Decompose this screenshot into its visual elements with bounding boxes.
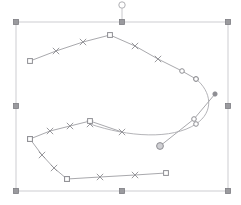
rotate-handle-icon[interactable] (119, 2, 125, 8)
right-bezier-curve[interactable] (90, 79, 209, 135)
handle-middle-right[interactable] (226, 104, 231, 109)
path-node-cross[interactable] (80, 39, 86, 45)
path-node-markers-layer[interactable] (28, 33, 218, 182)
upper-polyline[interactable] (30, 35, 196, 79)
handle-bottom-left[interactable] (14, 189, 19, 194)
path-node-square[interactable] (88, 119, 93, 124)
path-node-cross[interactable] (132, 43, 138, 49)
path-node-cross[interactable] (47, 128, 53, 134)
vector-editor-canvas[interactable] (0, 0, 241, 205)
handle-top-right[interactable] (226, 20, 231, 25)
path-node-circle[interactable] (192, 117, 197, 122)
path-node-square[interactable] (28, 137, 33, 142)
selection-bounding-box (16, 22, 228, 191)
selection-handles-layer[interactable] (14, 20, 231, 194)
path-node-square[interactable] (108, 33, 113, 38)
path-node-cross[interactable] (39, 152, 45, 158)
vector-graphics-surface[interactable] (0, 0, 241, 205)
path-node-square[interactable] (164, 171, 169, 176)
lower-left-polyline[interactable] (30, 139, 67, 179)
path-node-circle-selected[interactable] (157, 143, 164, 150)
diagonal-connector[interactable] (160, 94, 215, 146)
handle-top-center[interactable] (120, 20, 125, 25)
path-node-dot[interactable] (213, 92, 217, 96)
path-node-circle[interactable] (180, 69, 185, 74)
path-node-cross[interactable] (155, 56, 161, 62)
handle-bottom-center[interactable] (120, 189, 125, 194)
selection-layer (16, 2, 228, 191)
paths-layer[interactable] (30, 35, 215, 179)
bottom-polyline[interactable] (67, 173, 166, 179)
path-node-square[interactable] (28, 59, 33, 64)
handle-middle-left[interactable] (14, 104, 19, 109)
handle-top-left[interactable] (14, 20, 19, 25)
path-node-circle[interactable] (194, 122, 199, 127)
path-node-square[interactable] (65, 177, 70, 182)
middle-polyline[interactable] (30, 121, 122, 139)
path-node-circle[interactable] (194, 77, 199, 82)
path-node-cross[interactable] (51, 165, 57, 171)
path-node-cross[interactable] (53, 48, 59, 54)
path-node-cross[interactable] (67, 123, 73, 129)
handle-bottom-right[interactable] (226, 189, 231, 194)
